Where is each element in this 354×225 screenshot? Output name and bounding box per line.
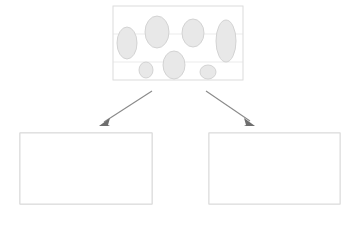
microstructure-diagram bbox=[0, 0, 354, 225]
arrow-shaft bbox=[206, 91, 250, 121]
particle bbox=[216, 20, 236, 62]
arrow-shaft bbox=[104, 91, 152, 122]
figure-root bbox=[0, 0, 354, 225]
particle bbox=[139, 62, 153, 78]
top-panel bbox=[113, 6, 243, 80]
particle bbox=[145, 16, 169, 48]
particle bbox=[117, 27, 137, 59]
bottom-left-frame bbox=[20, 133, 152, 204]
bottom-right-frame-overlay bbox=[209, 133, 340, 204]
arrow-to-columns bbox=[206, 91, 255, 126]
arrow-head-icon bbox=[244, 118, 255, 126]
arrow-to-percolated bbox=[99, 91, 152, 126]
particle bbox=[200, 65, 216, 79]
particle bbox=[163, 51, 185, 79]
bottom-right-panel bbox=[209, 133, 342, 204]
bottom-left-panel bbox=[16, 133, 158, 211]
particle bbox=[182, 19, 204, 47]
